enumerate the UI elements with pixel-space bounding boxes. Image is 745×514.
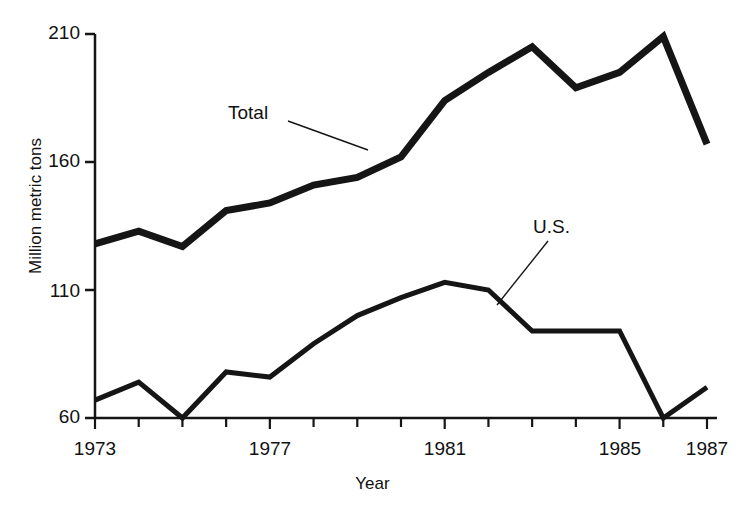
y-axis-title: Million metric tons bbox=[26, 106, 46, 306]
y-tick-label: 60 bbox=[18, 406, 80, 428]
x-axis-ticks bbox=[95, 418, 707, 429]
axis-lines bbox=[95, 34, 717, 418]
x-tick-label: 1973 bbox=[65, 438, 125, 460]
chart-figure: 21016011060 19731977198119851987 TotalU.… bbox=[0, 0, 745, 514]
total-annotation-leader-line bbox=[288, 121, 368, 150]
x-tick-label: 1985 bbox=[590, 438, 650, 460]
chart-plot-area bbox=[0, 0, 745, 514]
x-axis-title: Year bbox=[0, 474, 745, 494]
us-annotation-leader-line bbox=[497, 241, 548, 305]
x-tick-label: 1987 bbox=[677, 438, 737, 460]
annotation-leader-lines bbox=[288, 121, 548, 305]
x-tick-label: 1981 bbox=[415, 438, 475, 460]
data-series-lines bbox=[95, 37, 707, 418]
total-annotation-label: Total bbox=[228, 102, 268, 124]
series-line-total bbox=[95, 37, 707, 247]
us-annotation-label: U.S. bbox=[533, 216, 570, 238]
y-axis-ticks bbox=[85, 34, 95, 418]
x-tick-label: 1977 bbox=[240, 438, 300, 460]
y-tick-label: 210 bbox=[18, 22, 80, 44]
series-line-u-s bbox=[95, 282, 707, 418]
